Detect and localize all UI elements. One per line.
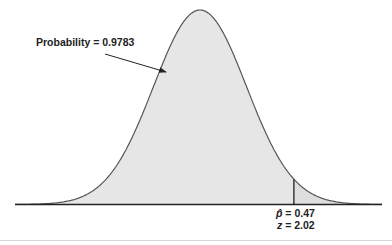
probability-annotation: Probability = 0.9783: [36, 36, 134, 48]
z-label: z = 2.02: [277, 219, 315, 231]
phat-value: = 0.47: [282, 207, 314, 219]
bottom-divider: [0, 240, 392, 241]
z-value: = 2.02: [282, 219, 314, 231]
phat-label: p̂ = 0.47: [276, 207, 315, 219]
tail-area-right: [294, 179, 382, 204]
annotation-arrow: [105, 54, 166, 72]
